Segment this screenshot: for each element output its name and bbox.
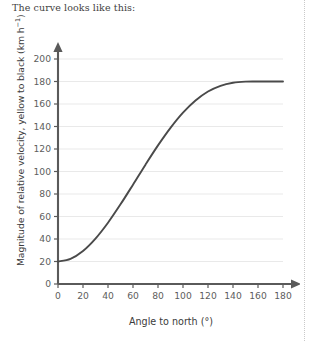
y-tick-label: 0 [45, 278, 51, 289]
y-tick-label: 200 [33, 53, 51, 64]
x-tick-label: 80 [152, 290, 164, 301]
y-tick-label: 160 [33, 98, 51, 109]
y-tick-label: 60 [39, 211, 51, 222]
y-tick-label: 40 [39, 233, 51, 244]
x-tick-label: 180 [274, 290, 292, 301]
caption-text: The curve looks like this: [12, 2, 135, 13]
x-tick-label: 0 [55, 290, 61, 301]
y-tick-label: 180 [33, 76, 51, 87]
x-axis-arrowhead [291, 279, 300, 288]
chart-figure: Magnitude of relative velocity, yellow t… [0, 18, 300, 338]
x-tick-label: 160 [249, 290, 267, 301]
y-tick-label: 100 [33, 166, 51, 177]
y-tick-label: 20 [39, 256, 51, 267]
plot-area: 020406080100120140160180200 020406080100… [0, 18, 300, 318]
y-axis-arrowhead [53, 42, 62, 52]
x-axis-label: Angle to north (°) [58, 316, 284, 327]
x-tick-label: 40 [102, 290, 114, 301]
y-axis-ticks: 020406080100120140160180200 [33, 53, 58, 289]
x-tick-label: 100 [174, 290, 192, 301]
page-edge-divider [304, 0, 305, 341]
x-tick-label: 120 [199, 290, 217, 301]
gridlines [58, 59, 283, 262]
y-tick-label: 120 [33, 143, 51, 154]
x-axis-ticks: 020406080100120140160180 [55, 284, 292, 301]
x-tick-label: 140 [224, 290, 242, 301]
y-tick-label: 80 [39, 188, 51, 199]
x-tick-label: 20 [77, 290, 89, 301]
x-tick-label: 60 [127, 290, 139, 301]
y-tick-label: 140 [33, 121, 51, 132]
